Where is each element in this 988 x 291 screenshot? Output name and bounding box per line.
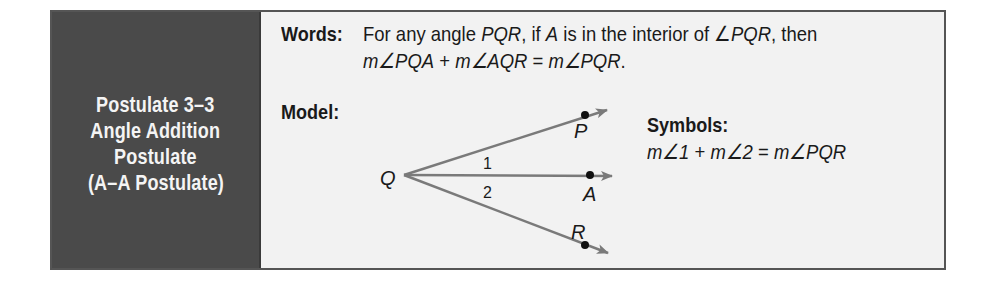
point-a [586,171,594,179]
plus-sign: + [689,140,710,163]
postulate-title-panel: Postulate 3–3 Angle Addition Postulate (… [52,12,261,268]
point-p [581,111,589,119]
angle-label-1: 1 [483,155,492,172]
point-label-r: R [571,221,585,243]
postulate-abbreviation: (A–A Postulate) [87,170,223,196]
angle-measure: m∠1 [647,140,689,163]
postulate-content-panel: Words: For any angle PQR, if A is in the… [261,12,944,268]
vertex-label-q: Q [380,167,396,189]
ray-qa [404,175,612,176]
postulate-name-line2: Postulate [114,144,197,170]
angle-label-2: 2 [483,184,492,201]
symbols-label: Symbols: [647,113,728,137]
angle-measure: m∠PQR [774,140,846,163]
postulate-number: Postulate 3–3 [96,92,214,118]
point-label-a: A [582,183,596,205]
equals-sign: = [753,140,774,163]
postulate-box: Postulate 3–3 Angle Addition Postulate (… [50,10,946,270]
angle-measure: m∠2 [710,140,752,163]
postulate-name-line1: Angle Addition [91,118,221,144]
symbols-equation: m∠1 + m∠2 = m∠PQR [647,140,846,164]
point-label-p: P [574,120,588,142]
